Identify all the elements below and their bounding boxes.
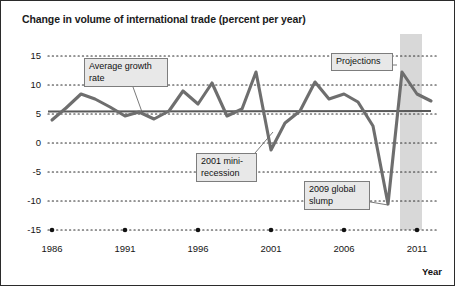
y-tick-label-5: 5 [15, 108, 41, 119]
y-tick-label-0: 0 [15, 137, 41, 148]
trade-volume-data-line [52, 72, 431, 204]
annotation-average-growth-rate: Average growth rate [84, 58, 168, 87]
x-tick-dot-2006 [342, 228, 347, 233]
x-tick-label-2001: 2001 [251, 243, 291, 254]
chart-figure: Change in volume of international trade … [0, 0, 455, 286]
annotation-2009-global-slump: 2009 global slump [304, 181, 370, 210]
x-tick-label-1991: 1991 [105, 243, 145, 254]
x-tick-dot-1991 [123, 228, 128, 233]
x-tick-dot-2011 [415, 228, 420, 233]
y-tick-label-10: 10 [15, 79, 41, 90]
y-tick-label-15: 15 [15, 50, 41, 61]
leader-average-growth [133, 87, 142, 112]
x-tick-dot-1986 [50, 228, 55, 233]
annotation-2001-mini-recession: 2001 mini- recession [196, 153, 257, 182]
x-tick-label-2006: 2006 [324, 243, 364, 254]
x-tick-label-1986: 1986 [32, 243, 72, 254]
annotation-projections: Projections [331, 53, 393, 71]
x-tick-label-2011: 2011 [397, 243, 437, 254]
x-axis-label: Year [422, 266, 442, 277]
y-tick-label-neg10: -10 [15, 195, 41, 206]
x-tick-dot-2001 [269, 228, 274, 233]
x-tick-dot-1996 [196, 228, 201, 233]
y-tick-label-neg15: -15 [15, 224, 41, 235]
x-tick-label-1996: 1996 [178, 243, 218, 254]
y-tick-label-neg5: -5 [15, 166, 41, 177]
plot-area: Average growth rate 2001 mini- recession… [1, 1, 455, 286]
